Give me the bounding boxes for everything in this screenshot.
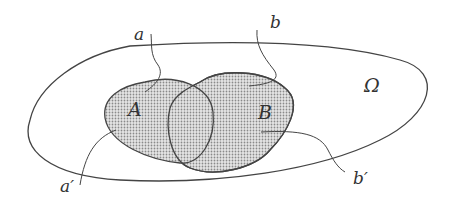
label-b-prime: b′ bbox=[353, 170, 368, 187]
label-a: a bbox=[134, 26, 144, 43]
venn-diagram bbox=[0, 0, 462, 201]
label-set-b: B bbox=[258, 103, 272, 122]
label-omega: Ω bbox=[364, 76, 380, 95]
set-a-region bbox=[105, 79, 214, 163]
path-a-prime-curve bbox=[80, 130, 116, 185]
label-set-a: A bbox=[128, 100, 142, 119]
label-b: b bbox=[270, 14, 281, 31]
label-a-prime: a′ bbox=[60, 178, 74, 195]
